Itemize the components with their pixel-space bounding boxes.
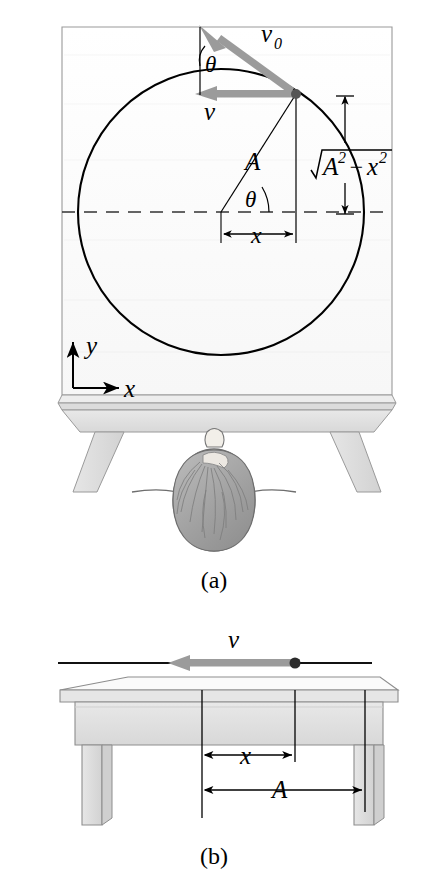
v-arrow-side — [168, 655, 300, 671]
svg-text:A: A — [321, 153, 339, 180]
svg-text:x: x — [366, 153, 378, 180]
label-theta-top: θ — [205, 52, 216, 77]
table-top-slab-side — [60, 677, 398, 702]
figure-svg: v 0 θ v A θ x A 2 − x 2 y x (a) — [0, 0, 428, 873]
table-top-surface — [62, 27, 392, 395]
label-v0: v — [261, 20, 273, 47]
table-apron-side — [75, 702, 383, 745]
table-leg-left — [73, 432, 124, 492]
label-theta-center: θ — [245, 187, 256, 212]
svg-text:2: 2 — [338, 149, 346, 166]
panel-b: v x A (b) — [58, 626, 398, 869]
table-leg-right — [330, 432, 381, 492]
caption-a: (a) — [201, 567, 228, 593]
table-front-edge — [58, 395, 396, 410]
label-radius-A: A — [243, 148, 261, 175]
label-axis-y: y — [83, 332, 98, 359]
label-v: v — [204, 98, 216, 125]
label-x-dimension-side: x — [239, 742, 251, 769]
table-leg-left-side — [82, 745, 112, 825]
svg-text:−: − — [348, 154, 364, 180]
panel-a: v 0 θ v A θ x A 2 − x 2 y x (a) — [58, 20, 396, 593]
particle-dot-side — [290, 658, 301, 669]
label-amplitude-side: A — [270, 776, 288, 803]
physics-figure: v 0 θ v A θ x A 2 − x 2 y x (a) — [0, 0, 428, 873]
label-axis-x: x — [123, 375, 135, 402]
particle-dot — [291, 89, 301, 99]
label-v-side: v — [228, 626, 240, 653]
svg-text:2: 2 — [379, 149, 387, 166]
caption-b: (b) — [200, 843, 228, 869]
table-leg-right-side — [354, 745, 384, 825]
label-v0-subscript: 0 — [274, 35, 282, 52]
label-x-dimension: x — [250, 222, 262, 248]
person-head-top-view — [132, 429, 296, 552]
table-apron — [62, 410, 392, 432]
